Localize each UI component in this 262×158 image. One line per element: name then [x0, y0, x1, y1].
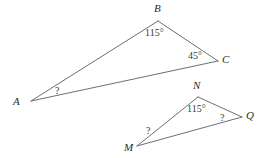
- vertex-label-q: Q: [246, 110, 254, 121]
- segment-ab: [31, 21, 158, 101]
- angle-label-b: 115°: [145, 28, 164, 38]
- vertex-label-n: N: [193, 80, 200, 91]
- angle-label-a: ?: [55, 86, 59, 96]
- angle-label-c: 45°: [188, 51, 202, 61]
- vertex-label-c: C: [222, 54, 229, 65]
- triangles-canvas: [0, 0, 262, 158]
- segment-mq: [137, 117, 242, 146]
- geometry-figure: A B C M N Q ? 115° 45° ? 115° ?: [0, 0, 262, 158]
- angle-label-q: ?: [220, 113, 224, 123]
- vertex-label-m: M: [124, 142, 133, 153]
- angle-label-m: ?: [146, 126, 150, 136]
- vertex-label-a: A: [13, 96, 20, 107]
- angle-label-n: 115°: [187, 104, 206, 114]
- vertex-label-b: B: [154, 3, 161, 14]
